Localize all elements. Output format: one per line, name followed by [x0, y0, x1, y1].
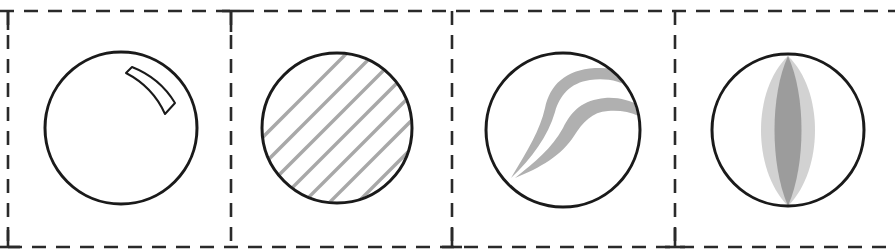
sphere-outline	[45, 52, 197, 204]
panel-4-lens-circle	[712, 54, 864, 206]
diagram-stage	[0, 0, 895, 250]
panel-1-sphere	[45, 52, 197, 204]
panel-2-hatched-circle	[250, 40, 446, 228]
panel-3-wisp-circle	[486, 53, 645, 207]
four-panel-circle-diagram	[0, 0, 895, 250]
